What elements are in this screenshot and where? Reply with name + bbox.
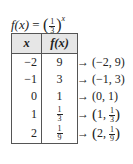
arrow-icon: → [77, 126, 89, 140]
fraction: 13 [57, 106, 63, 123]
table-row: 0 1 [12, 88, 78, 105]
cell-fx: 1 [42, 88, 78, 105]
table-row: −2 9 [12, 54, 78, 72]
table-row: 2 19 [12, 124, 78, 144]
point-coordinates: (−2, 9) [92, 55, 125, 69]
table-row: −1 3 [12, 71, 78, 88]
point-item: → (1, 13) [77, 105, 125, 124]
cell-x: 1 [12, 105, 42, 124]
table-row: 1 13 [12, 105, 78, 124]
point-list: → (−2, 9) → (−1, 3) → (0, 1) → (1, 13) →… [77, 54, 125, 143]
base-fraction: 13 [49, 18, 55, 35]
function-lhs: f(x) [11, 17, 29, 32]
left-paren: ( [43, 16, 48, 33]
cell-fx: 13 [42, 105, 78, 124]
point-coordinates: (−1, 3) [92, 72, 125, 86]
exponent: x [62, 14, 66, 23]
cell-fx: 3 [42, 71, 78, 88]
arrow-icon: → [77, 72, 89, 86]
cell-x: 2 [12, 124, 42, 144]
arrow-icon: → [77, 107, 89, 121]
fraction: 19 [57, 125, 63, 142]
point-item: → (2, 19) [77, 124, 125, 143]
point-item: → (−1, 3) [77, 71, 125, 88]
point-item: → (0, 1) [77, 88, 125, 105]
arrow-icon: → [77, 55, 89, 69]
function-definition: f(x) = (13)x [11, 11, 65, 35]
point-coordinates: (0, 1) [92, 89, 118, 103]
arrow-icon: → [77, 89, 89, 103]
cell-x: −2 [12, 54, 42, 72]
cell-x: −1 [12, 71, 42, 88]
table-header-row: x f(x) [12, 34, 78, 54]
value-table: x f(x) −2 9 −1 3 0 1 1 13 2 19 [11, 33, 78, 144]
cell-fx: 19 [42, 124, 78, 144]
cell-x: 0 [12, 88, 42, 105]
header-x: x [12, 34, 42, 54]
cell-fx: 9 [42, 54, 78, 72]
equals-sign: = [32, 17, 39, 32]
header-fx: f(x) [42, 34, 78, 54]
point-item: → (−2, 9) [77, 54, 125, 71]
